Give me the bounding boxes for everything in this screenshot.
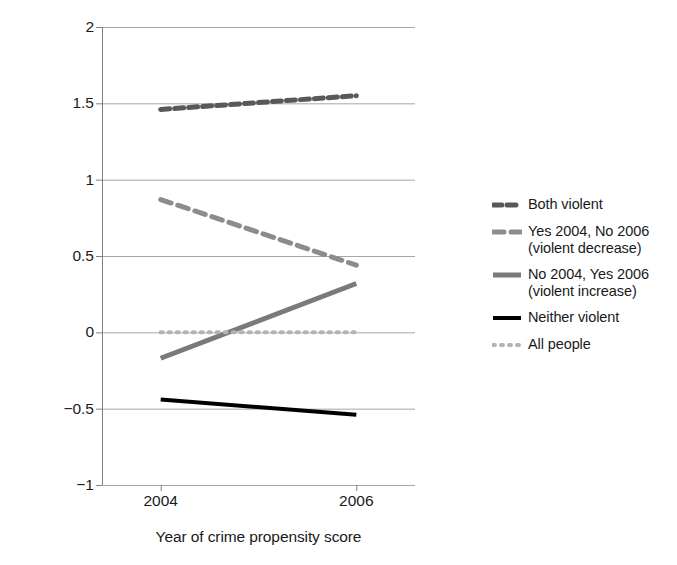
y-tick-label: 0 (10, 325, 94, 341)
legend-item[interactable]: No 2004, Yes 2006 (violent increase) (492, 266, 677, 300)
y-tick-label: 1 (10, 172, 94, 188)
legend-label: Yes 2004, No 2006 (violent decrease) (528, 223, 649, 257)
legend-item[interactable]: Both violent (492, 196, 677, 214)
legend-swatch-icon (492, 336, 522, 354)
legend-label: Neither violent (528, 309, 619, 326)
y-tick-label: 1.5 (10, 96, 94, 112)
x-axis-tick-labels: 20042006 (102, 492, 415, 516)
plot-area (102, 27, 415, 485)
x-tick-label: 2004 (116, 492, 206, 511)
y-tick-label: −1 (10, 477, 94, 493)
legend-item[interactable]: All people (492, 336, 677, 354)
y-tick-label: −0.5 (10, 401, 94, 417)
legend-swatch-icon (492, 196, 522, 214)
x-tick-label: 2006 (311, 492, 401, 511)
y-tick-label: 0.5 (10, 248, 94, 264)
y-tick-label: 2 (10, 19, 94, 35)
chart-legend: Both violentYes 2004, No 2006 (violent d… (492, 196, 677, 363)
legend-swatch-icon (492, 266, 522, 284)
x-axis-title: Year of crime propensity score (102, 528, 415, 546)
legend-item[interactable]: Yes 2004, No 2006 (violent decrease) (492, 223, 677, 257)
series-line (161, 400, 357, 415)
legend-item[interactable]: Neither violent (492, 309, 677, 327)
legend-label: Both violent (528, 196, 603, 213)
series-line (161, 96, 357, 110)
series-line (161, 200, 357, 266)
legend-swatch-icon (492, 223, 522, 241)
y-axis-tick-labels: 21.510.50−0.5−1 (0, 27, 94, 485)
legend-label: No 2004, Yes 2006 (violent increase) (528, 266, 649, 300)
series-line (161, 283, 357, 358)
legend-label: All people (528, 336, 591, 353)
legend-swatch-icon (492, 309, 522, 327)
plot-canvas (102, 27, 415, 485)
chart-figure: Mean standardized crime propensity score… (0, 0, 677, 565)
